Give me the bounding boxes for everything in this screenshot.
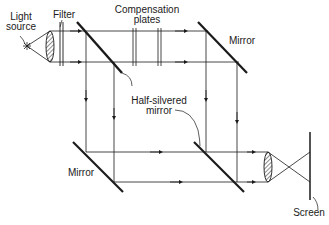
mirror-top-right (198, 22, 247, 73)
label-screen: Screen (292, 208, 326, 218)
label-compensation-plates: Compensation plates (112, 5, 182, 25)
label-half-silvered-mirror: Half-silvered mirror (124, 96, 194, 116)
label-filter: Filter (49, 10, 79, 20)
lens-focusing (264, 152, 272, 182)
half-silvered-mirror-2 (194, 142, 244, 192)
half-silvered-mirror-1 (77, 22, 122, 73)
label-mirror-top: Mirror (224, 36, 260, 46)
label-light-source: Light source (4, 12, 38, 32)
label-mirror-bottom: Mirror (66, 168, 96, 178)
lens-collimator (46, 31, 54, 62)
